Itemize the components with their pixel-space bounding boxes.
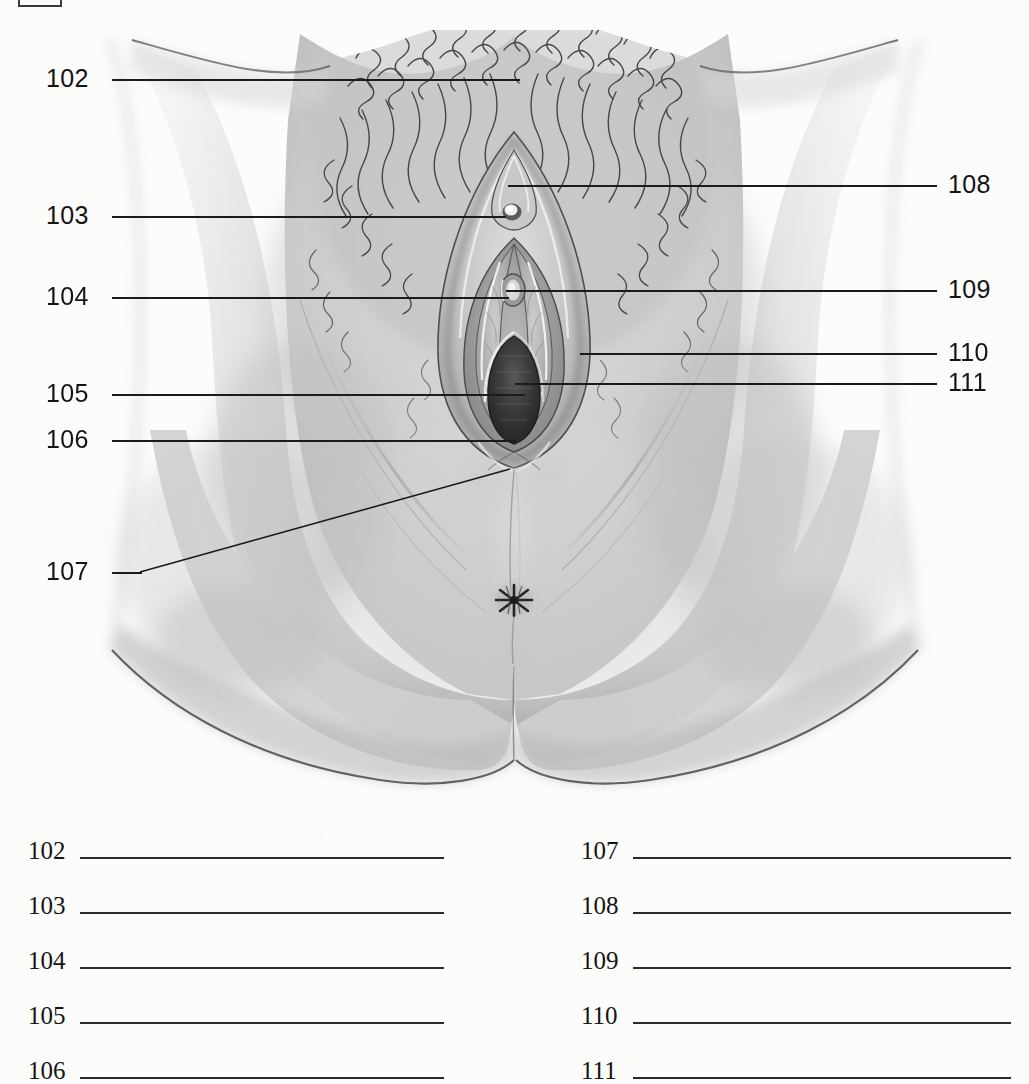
- answer-line-110[interactable]: [633, 1022, 1011, 1024]
- leader-number-103: 103: [46, 203, 89, 228]
- leader-number-105: 105: [46, 381, 89, 406]
- answer-line-104[interactable]: [80, 967, 444, 969]
- answer-number-106: 106: [28, 1058, 80, 1083]
- answer-line-107[interactable]: [633, 857, 1011, 859]
- leader-line-107-diagonal: [138, 462, 538, 582]
- leader-number-108: 108: [948, 172, 991, 197]
- answer-number-110: 110: [581, 1003, 633, 1028]
- leader-line-108: [508, 185, 937, 187]
- answer-number-111: 111: [581, 1058, 633, 1083]
- answer-line-106[interactable]: [80, 1077, 444, 1079]
- leader-line-110: [580, 353, 937, 355]
- answer-line-105[interactable]: [80, 1022, 444, 1024]
- leader-number-110: 110: [948, 340, 989, 365]
- answer-number-108: 108: [581, 893, 633, 918]
- leader-number-109: 109: [948, 277, 991, 302]
- anus: [495, 585, 533, 616]
- answer-row-102[interactable]: 102: [28, 838, 444, 863]
- answer-number-104: 104: [28, 948, 80, 973]
- answer-number-109: 109: [581, 948, 633, 973]
- leader-number-106: 106: [46, 427, 89, 452]
- answer-number-103: 103: [28, 893, 80, 918]
- leader-line-104: [112, 297, 509, 299]
- leader-number-102: 102: [46, 66, 89, 91]
- leader-line-105: [112, 394, 525, 396]
- answer-row-104[interactable]: 104: [28, 948, 444, 973]
- answer-line-102[interactable]: [80, 857, 444, 859]
- leader-number-104: 104: [46, 284, 89, 309]
- answer-row-108[interactable]: 108: [581, 893, 1011, 918]
- anatomy-illustration: [0, 0, 1029, 800]
- answer-row-106[interactable]: 106: [28, 1058, 444, 1083]
- answer-row-109[interactable]: 109: [581, 948, 1011, 973]
- leader-line-103: [112, 216, 506, 218]
- leader-line-111: [515, 383, 937, 385]
- leader-line-102: [112, 79, 520, 81]
- answer-row-107[interactable]: 107: [581, 838, 1011, 863]
- cropped-frame-corner: [18, 0, 62, 7]
- answer-blanks-section: 102 103 104 105 106 107 108 109: [0, 812, 1029, 1084]
- answer-row-110[interactable]: 110: [581, 1003, 1011, 1028]
- leader-number-107: 107: [46, 559, 89, 584]
- answer-number-105: 105: [28, 1003, 80, 1028]
- answer-number-102: 102: [28, 838, 80, 863]
- answer-row-111[interactable]: 111: [581, 1058, 1011, 1083]
- answer-line-108[interactable]: [633, 912, 1011, 914]
- leader-number-111: 111: [948, 370, 987, 395]
- answer-number-107: 107: [581, 838, 633, 863]
- leader-line-109: [506, 290, 937, 292]
- answer-row-105[interactable]: 105: [28, 1003, 444, 1028]
- answer-row-103[interactable]: 103: [28, 893, 444, 918]
- answer-line-111[interactable]: [633, 1077, 1011, 1079]
- answer-line-103[interactable]: [80, 912, 444, 914]
- worksheet-page: 102 103 104 105 106 107: [0, 0, 1029, 1084]
- answer-line-109[interactable]: [633, 967, 1011, 969]
- clitoris: [503, 204, 522, 221]
- leader-line-106: [112, 440, 516, 442]
